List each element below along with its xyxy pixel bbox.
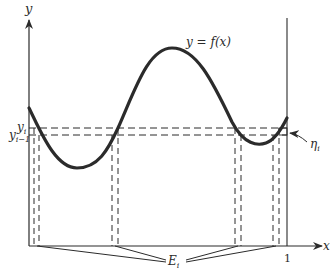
lebesgue-partition-diagram: y x y = f(x) yi yi−1 ηi Ei 1 (0, 0, 332, 272)
x-axis-label: x (323, 239, 330, 253)
one-tick-label: 1 (284, 252, 291, 265)
e-i-label: Ei (167, 254, 180, 270)
curve-f (29, 48, 287, 168)
e-i-pointers (37, 246, 276, 262)
eta-arrow (290, 133, 307, 142)
eta-label: ηi (310, 137, 320, 153)
set-e-vertical-dashes (34, 128, 279, 246)
y-axis-label: y (24, 1, 33, 16)
curve-label: y = f(x) (185, 35, 231, 49)
y-i-label: yi (16, 120, 27, 136)
